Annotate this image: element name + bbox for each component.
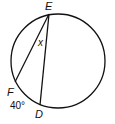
point-label-d: D (35, 109, 43, 120)
arc-label-40: 40° (10, 101, 25, 111)
angle-label-x: x (38, 38, 43, 48)
point-label-f: F (7, 87, 14, 98)
chord-ed (40, 14, 49, 105)
point-label-e: E (45, 1, 52, 12)
